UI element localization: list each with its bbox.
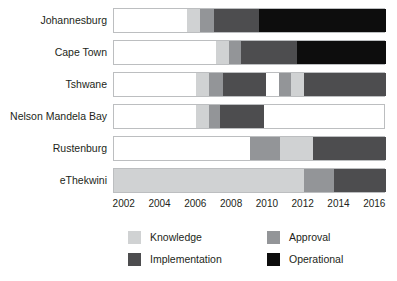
bar-segment-approval bbox=[279, 73, 292, 96]
bar-segment-implementation bbox=[214, 9, 259, 32]
category-label: Cape Town bbox=[1, 40, 113, 65]
category-label: Nelson Mandela Bay bbox=[1, 104, 113, 129]
x-tick-label: 2004 bbox=[148, 198, 170, 209]
bar-row bbox=[113, 72, 385, 97]
legend-swatch-operational bbox=[267, 253, 280, 266]
bar-track bbox=[113, 8, 385, 33]
bar-segment-implementation bbox=[241, 41, 296, 64]
bar-track bbox=[113, 72, 385, 97]
bar-segment-approval bbox=[304, 169, 334, 192]
category-label: Johannesburg bbox=[1, 8, 113, 33]
bar-segment-approval bbox=[209, 105, 220, 128]
chart-legend: KnowledgeApprovalImplementationOperation… bbox=[128, 228, 378, 272]
bar-segment-implementation bbox=[334, 169, 386, 192]
bar-segment-knowledge bbox=[291, 73, 304, 96]
bar-segment-knowledge bbox=[196, 73, 209, 96]
legend-label: Implementation bbox=[150, 253, 222, 265]
x-tick-label: 2006 bbox=[184, 198, 206, 209]
category-label: eThekwini bbox=[1, 168, 113, 193]
bar-track bbox=[113, 136, 385, 161]
bar-segment-implementation bbox=[313, 137, 386, 160]
legend-swatch-approval bbox=[267, 231, 280, 244]
bar-row bbox=[113, 136, 385, 161]
bar-track bbox=[113, 168, 385, 193]
legend-label: Approval bbox=[289, 231, 330, 243]
bar-segment-implementation bbox=[223, 73, 266, 96]
bar-segment-approval bbox=[200, 9, 214, 32]
bar-segment-approval bbox=[229, 41, 242, 64]
x-tick-label: 2010 bbox=[256, 198, 278, 209]
bar-segment-knowledge bbox=[216, 41, 229, 64]
x-tick-label: 2002 bbox=[113, 198, 135, 209]
x-tick-label: 2016 bbox=[363, 198, 385, 209]
category-label: Rustenburg bbox=[1, 136, 113, 161]
legend-label: Operational bbox=[289, 253, 343, 265]
bar-row bbox=[113, 168, 385, 193]
x-tick-label: 2008 bbox=[220, 198, 242, 209]
legend-item: Implementation bbox=[128, 250, 222, 268]
bar-segment-approval bbox=[209, 73, 223, 96]
bar-track bbox=[113, 40, 385, 65]
stacked-timeline-chart: JohannesburgCape TownTshwaneNelson Mande… bbox=[0, 0, 397, 281]
legend-label: Knowledge bbox=[150, 231, 202, 243]
category-label: Tshwane bbox=[1, 72, 113, 97]
x-axis: 20022004200620082010201220142016 bbox=[113, 198, 385, 218]
legend-item: Operational bbox=[267, 250, 343, 268]
bar-segment-knowledge bbox=[280, 137, 312, 160]
x-tick-label: 2012 bbox=[292, 198, 314, 209]
category-axis: JohannesburgCape TownTshwaneNelson Mande… bbox=[0, 8, 113, 198]
bar-track bbox=[113, 104, 385, 129]
bar-segment-implementation bbox=[304, 73, 386, 96]
bar-segment-approval bbox=[250, 137, 280, 160]
bar-segment-knowledge bbox=[114, 169, 304, 192]
bar-row bbox=[113, 104, 385, 129]
plot-area bbox=[113, 8, 385, 198]
bar-segment-knowledge bbox=[187, 9, 200, 32]
legend-swatch-knowledge bbox=[128, 231, 141, 244]
bar-segment-implementation bbox=[220, 105, 265, 128]
bar-row bbox=[113, 8, 385, 33]
x-tick-label: 2014 bbox=[327, 198, 349, 209]
bar-segment-knowledge bbox=[196, 105, 209, 128]
bar-segment-operational bbox=[259, 9, 386, 32]
legend-swatch-implementation bbox=[128, 253, 141, 266]
bar-row bbox=[113, 40, 385, 65]
legend-item: Knowledge bbox=[128, 228, 202, 246]
legend-item: Approval bbox=[267, 228, 330, 246]
bar-segment-operational bbox=[297, 41, 386, 64]
